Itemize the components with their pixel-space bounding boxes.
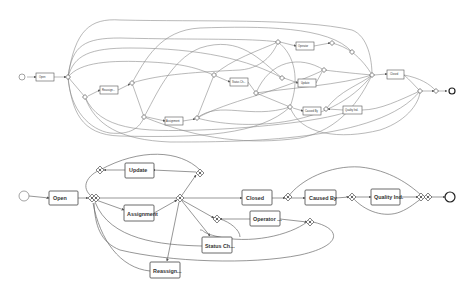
svg-text:Quality Ind.: Quality Ind. [345, 108, 358, 112]
task-open[interactable]: Open [36, 73, 54, 81]
xor-gateway-icon [306, 218, 314, 226]
svg-text:Update: Update [129, 167, 147, 173]
task-update[interactable]: Update [298, 79, 316, 87]
top-end-event [449, 88, 455, 94]
xor-gateway-icon [96, 166, 104, 174]
svg-text:Assignment: Assignment [127, 211, 158, 217]
svg-text:Assignment: Assignment [166, 119, 180, 123]
top-tasks: Open Reassign... Assignment Status Ch...… [36, 42, 404, 125]
svg-text:Update: Update [301, 81, 310, 85]
bottom-end-event [445, 192, 455, 202]
svg-text:Reassign...: Reassign... [153, 268, 182, 274]
svg-text:Operator: Operator [298, 44, 308, 48]
task-quality-ind[interactable]: Quality Ind. [371, 189, 404, 205]
bottom-start-event [19, 191, 29, 201]
xor-gateway-icon [196, 169, 204, 177]
svg-text:Closed: Closed [246, 195, 264, 201]
xor-gateway-icon [195, 116, 200, 121]
bottom-process-model: Open Update Assignment Status Ch... Reas… [19, 154, 455, 278]
task-update[interactable]: Update [125, 163, 154, 178]
xor-gateway-icon [322, 68, 327, 73]
xor-gateway-icon [284, 193, 292, 201]
task-closed[interactable]: Closed [387, 70, 404, 79]
svg-text:Status Ch...: Status Ch... [205, 243, 235, 249]
task-assignment[interactable]: Assignment [165, 117, 183, 125]
task-reassign[interactable]: Reassign... [100, 86, 118, 94]
svg-text:Open: Open [53, 195, 67, 201]
svg-text:Caused By: Caused By [305, 109, 318, 113]
process-model-canvas: Open Reassign... Assignment Status Ch...… [0, 0, 472, 290]
top-gateways [66, 40, 439, 121]
xor-gateway-icon [213, 215, 221, 223]
svg-text:Closed: Closed [390, 72, 399, 76]
bottom-edges [29, 154, 445, 271]
xor-gateway-icon [424, 193, 432, 201]
task-caused-by[interactable]: Caused By [303, 107, 321, 115]
task-assignment[interactable]: Assignment [124, 205, 158, 221]
top-process-model: Open Reassign... Assignment Status Ch...… [19, 20, 455, 142]
xor-gateway-icon [370, 73, 375, 78]
task-caused-by[interactable]: Caused By [305, 190, 337, 205]
xor-gateway-icon [130, 81, 135, 86]
task-reassign[interactable]: Reassign... [150, 262, 182, 278]
task-status-change[interactable]: Status Ch... [202, 237, 235, 253]
xor-gateway-icon [142, 115, 147, 120]
svg-text:Reassign...: Reassign... [102, 88, 115, 92]
task-operator[interactable]: Operator ... [250, 211, 282, 226]
task-status-change[interactable]: Status Ch... [230, 78, 248, 86]
top-start-event [19, 74, 25, 80]
task-open[interactable]: Open [49, 191, 78, 205]
task-quality-ind[interactable]: Quality Ind. [343, 106, 362, 114]
svg-text:Quality Ind.: Quality Ind. [374, 194, 404, 200]
svg-text:Operator ...: Operator ... [253, 216, 282, 222]
task-operator[interactable]: Operator [296, 42, 314, 50]
task-closed[interactable]: Closed [242, 190, 272, 205]
svg-text:Status Ch...: Status Ch... [232, 80, 246, 84]
svg-text:Open: Open [39, 75, 46, 79]
svg-text:Caused By: Caused By [309, 195, 337, 201]
xor-gateway-icon [330, 41, 335, 46]
